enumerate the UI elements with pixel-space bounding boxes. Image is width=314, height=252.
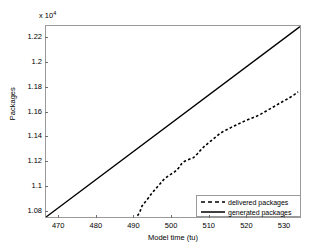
- legend-swatch-solid-icon: [200, 208, 226, 216]
- x-tick-mark: [171, 215, 172, 218]
- y-tick-mark: [45, 136, 48, 137]
- y-tick-label: 1.1: [32, 182, 42, 190]
- y-tick-mark: [45, 211, 48, 212]
- y-tick-label: 1.2: [32, 58, 42, 66]
- y-tick-mark: [45, 37, 48, 38]
- legend-box[interactable]: delivered packages generated packages: [196, 195, 301, 217]
- x-tick-label: 470: [45, 222, 71, 230]
- x-tick-label: 530: [271, 222, 297, 230]
- legend-label-delivered-packages: delivered packages: [226, 199, 288, 206]
- legend-swatch-dashed-icon: [200, 198, 226, 206]
- y-tick-mark: [45, 87, 48, 88]
- y-axis-exponent-power: 4: [53, 10, 56, 16]
- x-axis-title: Model time (tu): [45, 234, 301, 242]
- series-generated-packages: [46, 27, 300, 217]
- x-tick-mark: [246, 215, 247, 218]
- x-tick-label: 480: [83, 222, 109, 230]
- y-tick-label: 1.12: [27, 157, 42, 165]
- y-tick-label: 1.08: [27, 207, 42, 215]
- x-tick-mark: [96, 215, 97, 218]
- y-tick-mark: [45, 112, 48, 113]
- x-tick-mark: [133, 215, 134, 218]
- x-tick-mark: [58, 215, 59, 218]
- legend-item-delivered-packages[interactable]: delivered packages: [197, 197, 300, 207]
- legend-label-generated-packages: generated packages: [226, 209, 291, 216]
- y-tick-label: 1.18: [27, 83, 42, 91]
- x-tick-label: 500: [158, 222, 184, 230]
- y-tick-mark: [45, 161, 48, 162]
- y-tick-label: 1.22: [27, 33, 42, 41]
- y-tick-mark: [45, 62, 48, 63]
- plot-area: [45, 25, 301, 218]
- x-tick-mark: [209, 215, 210, 218]
- x-tick-label: 490: [120, 222, 146, 230]
- y-tick-label: 1.14: [27, 132, 42, 140]
- y-axis-ticks: 1.081.11.121.141.161.181.21.22: [0, 0, 42, 252]
- y-tick-label: 1.16: [27, 108, 42, 116]
- series-canvas: [46, 26, 300, 217]
- x-tick-label: 510: [196, 222, 222, 230]
- y-axis-title: Packages: [9, 74, 17, 134]
- figure-container: x 104 1.081.11.121.141.161.181.21.22 Pac…: [0, 0, 314, 252]
- x-tick-label: 520: [233, 222, 259, 230]
- x-tick-mark: [284, 215, 285, 218]
- y-tick-mark: [45, 186, 48, 187]
